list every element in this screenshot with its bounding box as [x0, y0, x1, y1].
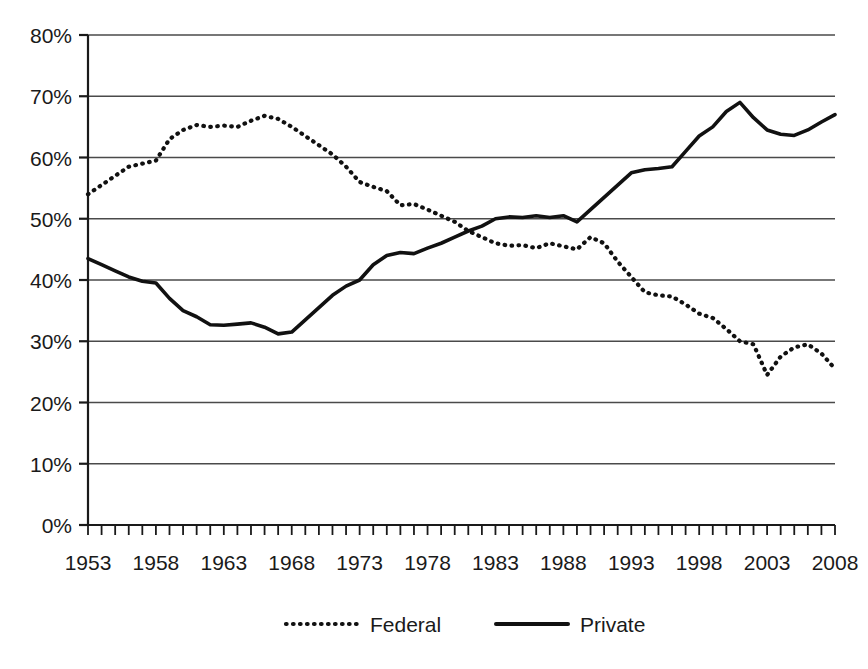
- y-tick-label: 10%: [30, 453, 72, 476]
- x-tick-labels: 1953195819631968197319781983198819931998…: [65, 551, 859, 574]
- y-tick-label: 40%: [30, 269, 72, 292]
- x-tick-label: 1978: [404, 551, 451, 574]
- y-tick-label: 0%: [42, 514, 72, 537]
- x-tick-label: 1958: [133, 551, 180, 574]
- x-tick-label: 1988: [540, 551, 587, 574]
- y-tick-labels: 80%70%60%50%40%30%20%10%0%: [30, 24, 72, 537]
- chart-canvas: 80%70%60%50%40%30%20%10%0% 1953195819631…: [0, 0, 868, 669]
- data-series: [88, 102, 835, 375]
- y-axis: [79, 35, 88, 525]
- x-tick-label: 2003: [744, 551, 791, 574]
- x-tick-label: 1953: [65, 551, 112, 574]
- y-tick-label: 60%: [30, 147, 72, 170]
- x-tick-label: 1963: [200, 551, 247, 574]
- x-tick-label: 1968: [268, 551, 315, 574]
- legend-label-federal: Federal: [370, 613, 441, 636]
- x-tick-label: 1998: [676, 551, 723, 574]
- y-tick-label: 20%: [30, 392, 72, 415]
- chart-legend: FederalPrivate: [286, 613, 645, 636]
- legend-label-private: Private: [580, 613, 645, 636]
- x-tick-label: 1993: [608, 551, 655, 574]
- y-tick-label: 70%: [30, 85, 72, 108]
- y-tick-label: 50%: [30, 208, 72, 231]
- line-chart: 80%70%60%50%40%30%20%10%0% 1953195819631…: [0, 0, 868, 669]
- x-tick-label: 1973: [336, 551, 383, 574]
- y-tick-label: 30%: [30, 330, 72, 353]
- gridlines: [88, 35, 835, 525]
- series-line-federal: [88, 116, 835, 375]
- x-tick-label: 2008: [812, 551, 859, 574]
- x-tick-label: 1983: [472, 551, 519, 574]
- x-axis: [88, 525, 835, 535]
- y-tick-label: 80%: [30, 24, 72, 47]
